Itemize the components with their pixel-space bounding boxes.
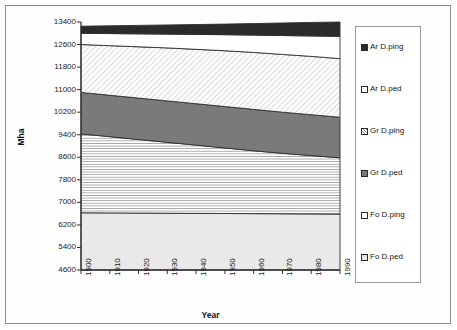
legend-label: Gr D.ping xyxy=(370,127,404,135)
x-tick-label: 1980 xyxy=(315,258,323,276)
legend-item-ar-d-ped[interactable]: Ar D.ped xyxy=(361,83,402,95)
legend-label: Ar D.ping xyxy=(370,43,403,51)
legend-swatch-icon xyxy=(361,128,368,135)
x-tick-label: 1930 xyxy=(171,258,179,276)
chart-legend: Ar D.pingAr D.pedGr D.pingGr D.pedFo D.p… xyxy=(355,26,421,283)
legend-item-gr-d-ped[interactable]: Gr D.ped xyxy=(361,167,402,179)
legend-swatch-icon xyxy=(361,86,368,93)
x-tick-label: 1940 xyxy=(200,258,208,276)
x-tick-label: 1910 xyxy=(114,258,122,276)
x-tick-label: 1920 xyxy=(143,258,151,276)
x-tick-label: 1990 xyxy=(344,258,352,276)
legend-swatch-icon xyxy=(361,254,368,261)
y-axis-title: Mha xyxy=(16,107,26,167)
x-axis-title: Year xyxy=(81,310,340,320)
x-tick-label: 1970 xyxy=(286,258,294,276)
legend-swatch-icon xyxy=(361,170,368,177)
x-tick-label: 1960 xyxy=(258,258,266,276)
legend-label: Fo D.ping xyxy=(370,211,405,219)
legend-swatch-icon xyxy=(361,212,368,219)
legend-label: Gr D.ped xyxy=(370,169,402,177)
x-tick-label: 1900 xyxy=(85,258,93,276)
legend-item-fo-d-ping[interactable]: Fo D.ping xyxy=(361,209,405,221)
legend-item-gr-d-ping[interactable]: Gr D.ping xyxy=(361,125,404,137)
legend-item-fo-d-ped[interactable]: Fo D.ped xyxy=(361,251,403,263)
legend-label: Fo D.ped xyxy=(370,253,403,261)
legend-item-ar-d-ping[interactable]: Ar D.ping xyxy=(361,41,403,53)
x-tick-label: 1950 xyxy=(229,258,237,276)
legend-label: Ar D.ped xyxy=(370,85,402,93)
legend-swatch-icon xyxy=(361,44,368,51)
